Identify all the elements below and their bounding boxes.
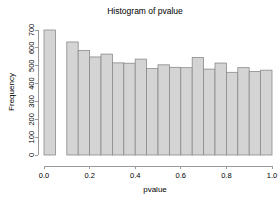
x-tick-label: 0.8 bbox=[221, 171, 231, 180]
bars-group bbox=[44, 30, 272, 155]
y-axis-label: Frequency bbox=[7, 73, 16, 111]
histogram-bar bbox=[226, 72, 237, 155]
histogram-bar bbox=[135, 59, 146, 155]
y-tick-label: 600 bbox=[27, 42, 36, 55]
x-axis: 0.00.20.40.60.81.0 bbox=[39, 166, 277, 180]
chart-title: Histogram of pvalue bbox=[107, 6, 183, 16]
histogram-bar bbox=[215, 63, 226, 155]
y-tick-label: 500 bbox=[27, 59, 36, 72]
y-tick-label: 0 bbox=[27, 153, 36, 157]
x-tick-label: 0.4 bbox=[130, 171, 140, 180]
x-tick-label: 1.0 bbox=[267, 171, 277, 180]
x-tick-label: 0.2 bbox=[84, 171, 94, 180]
histogram-bar bbox=[249, 72, 260, 155]
histogram-bar bbox=[124, 63, 135, 155]
y-tick-label: 300 bbox=[27, 95, 36, 108]
histogram-bar bbox=[147, 69, 158, 155]
x-tick-label: 0.6 bbox=[176, 171, 186, 180]
histogram-bar bbox=[44, 30, 55, 155]
y-tick-label: 100 bbox=[27, 131, 36, 144]
y-axis: 0100200300400500600700 bbox=[27, 24, 38, 157]
histogram-bar bbox=[158, 65, 169, 155]
y-tick-label: 400 bbox=[27, 77, 36, 90]
histogram-bar bbox=[67, 42, 78, 155]
histogram-bar bbox=[112, 63, 123, 155]
histogram-bar bbox=[204, 69, 215, 155]
histogram-bar bbox=[169, 67, 180, 155]
x-tick-label: 0.0 bbox=[39, 171, 49, 180]
histogram-bar bbox=[192, 58, 203, 156]
histogram-bar bbox=[78, 51, 89, 155]
histogram-plot: Histogram of pvalue Frequency pvalue 010… bbox=[0, 0, 278, 199]
histogram-bar bbox=[101, 54, 112, 155]
histogram-bar bbox=[238, 68, 249, 155]
histogram-bar bbox=[261, 70, 272, 155]
x-axis-label: pvalue bbox=[143, 185, 167, 194]
histogram-bar bbox=[181, 68, 192, 155]
histogram-bar bbox=[90, 57, 101, 155]
y-tick-label: 200 bbox=[27, 113, 36, 126]
y-tick-label: 700 bbox=[27, 24, 36, 37]
